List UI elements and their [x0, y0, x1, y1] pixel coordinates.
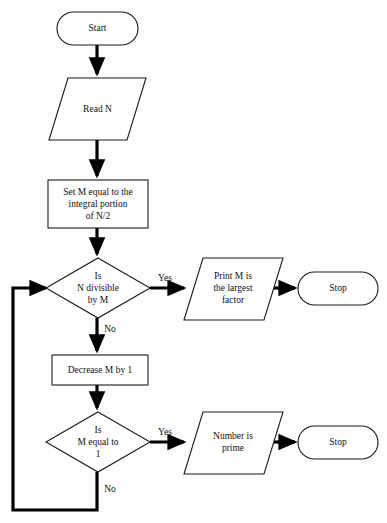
branch-label-divisible-no: No [104, 324, 116, 334]
print-factor-label-line2: the largest [213, 283, 252, 293]
number-prime-label-line2: prime [222, 443, 244, 453]
stop-prime-label: Stop [329, 437, 347, 447]
node-decision-equal-one[interactable]: Is M equal to 1 [46, 412, 150, 472]
node-set-m[interactable]: Set M equal to the integral portion of N… [48, 180, 148, 228]
print-factor-label-line1: Print M is [214, 271, 252, 281]
node-number-prime[interactable]: Number is prime [184, 412, 283, 474]
decision-divisible-label-line2: N divisible [77, 283, 119, 293]
node-print-factor[interactable]: Print M is the largest factor [184, 258, 283, 320]
connector-loopback-to-decision1 [13, 288, 97, 510]
set-m-label-line3: of N/2 [86, 211, 111, 221]
node-stop-prime[interactable]: Stop [298, 426, 378, 459]
decrease-m-label: Decrease M by 1 [68, 365, 133, 375]
node-decrease-m[interactable]: Decrease M by 1 [52, 355, 148, 385]
decision-divisible-label-line1: Is [95, 271, 102, 281]
decision-equal-one-label-line1: Is [95, 425, 102, 435]
number-prime-label-line1: Number is [213, 431, 253, 441]
decision-equal-one-label-line3: 1 [96, 449, 101, 459]
node-read-n[interactable]: Read N [49, 78, 146, 140]
stop-factor-label: Stop [329, 283, 347, 293]
branch-label-divisible-yes: Yes [158, 273, 172, 283]
node-stop-factor[interactable]: Stop [298, 272, 378, 305]
set-m-label-line2: integral portion [69, 199, 128, 209]
flowchart-svg: Start Read N Set M equal to the integral… [0, 0, 387, 523]
branch-label-equal-one-no: No [104, 484, 116, 494]
start-label: Start [89, 23, 107, 33]
node-decision-divisible[interactable]: Is N divisible by M [46, 258, 150, 318]
print-factor-label-line3: factor [222, 295, 245, 305]
branch-label-equal-one-yes: Yes [158, 427, 172, 437]
read-n-label: Read N [83, 104, 112, 114]
set-m-label-line1: Set M equal to the [63, 187, 133, 197]
decision-divisible-label-line3: by M [88, 295, 109, 305]
decision-equal-one-label-line2: M equal to [77, 437, 118, 447]
flowchart-canvas: Start Read N Set M equal to the integral… [0, 0, 387, 523]
node-start[interactable]: Start [57, 12, 138, 45]
